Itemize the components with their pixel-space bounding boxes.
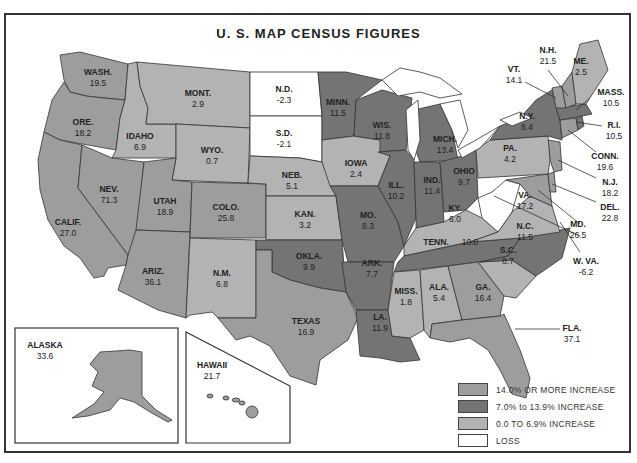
label-wyo: WYO.0.7 (201, 145, 224, 167)
label-mont: MONT.2.9 (185, 88, 211, 110)
label-kan: KAN.3.2 (295, 209, 316, 231)
label-me: ME.2.5 (573, 56, 588, 78)
label-sd: S.D.-2.1 (276, 128, 293, 150)
label-minn: MINN.11.5 (326, 97, 350, 119)
label-hawaii: HAWAII21.7 (197, 360, 227, 382)
label-ariz: ARIZ.36.1 (142, 266, 164, 288)
label-texas: TEXAS16.9 (292, 316, 320, 338)
label-ri: R.I.10.5 (606, 120, 623, 142)
label-tenn: TENN. (423, 237, 449, 248)
label-tenn-value: 10.0 (462, 237, 479, 248)
label-miss: MISS.1.8 (394, 286, 417, 308)
label-mo: MO.8.3 (360, 210, 376, 232)
label-ill: ILL.10.2 (388, 180, 405, 202)
legend-item-high: 14.0% OR MORE INCREASE (458, 381, 616, 398)
label-idaho: IDAHO6.9 (126, 131, 153, 153)
legend-item-loss: LOSS (458, 432, 616, 449)
label-nc: N.C.11.5 (517, 221, 534, 243)
label-ga: GA.16.4 (475, 282, 492, 304)
label-ny: N.Y.8.4 (519, 111, 535, 133)
label-alaska: ALASKA33.6 (27, 340, 62, 362)
legend-swatch-medium (458, 400, 488, 413)
label-va: VA.17.2 (517, 190, 534, 212)
legend-label-medium: 7.0% to 13.9% INCREASE (496, 402, 604, 412)
label-la: LA.11.9 (372, 312, 388, 334)
label-utah: UTAH18.9 (154, 196, 177, 218)
state-nj (548, 140, 562, 172)
legend-label-loss: LOSS (496, 436, 520, 446)
label-wis: WIS.11.8 (373, 120, 391, 142)
label-nev: NEV.71.3 (99, 184, 118, 206)
state-conn (560, 118, 578, 138)
label-ind: IND.11.4 (424, 175, 441, 197)
legend-label-low: 0.0 TO 6.9% INCREASE (496, 419, 595, 429)
label-wva: W. VA.-6.2 (573, 256, 599, 278)
label-wash: WASH.19.5 (84, 67, 112, 89)
legend-item-medium: 7.0% to 13.9% INCREASE (458, 398, 616, 415)
label-colo: COLO.25.8 (213, 202, 240, 224)
legend-swatch-low (458, 417, 488, 430)
label-vt: VT.14.1 (506, 64, 523, 86)
label-ky: KY.6.0 (448, 203, 461, 225)
label-iowa: IOWA2.4 (345, 158, 368, 180)
label-ohio: OHIO9.7 (453, 166, 475, 188)
label-ark: ARK.7.7 (362, 258, 383, 280)
label-ore: ORE.18.2 (73, 117, 94, 139)
leader-conn (568, 130, 596, 152)
leader-del (552, 184, 596, 202)
label-okla: OKLA.9.9 (296, 251, 322, 273)
legend-swatch-high (458, 383, 488, 396)
label-nh: N.H.21.5 (540, 45, 557, 67)
label-nd: N.D.-2.3 (276, 84, 293, 106)
label-del: DEL.22.8 (600, 202, 619, 224)
label-mich: MICH.13.4 (433, 134, 457, 156)
label-fla: FLA.37.1 (563, 323, 582, 345)
legend: 14.0% OR MORE INCREASE 7.0% to 13.9% INC… (458, 381, 616, 449)
legend-swatch-loss (458, 434, 488, 447)
label-neb: NEB.5.1 (282, 170, 302, 192)
label-ala: ALA.5.4 (429, 282, 449, 304)
label-pa: PA.4.2 (503, 143, 517, 165)
label-calif: CALIF.27.0 (55, 217, 81, 239)
label-nm: N.M.6.8 (213, 268, 231, 290)
legend-label-high: 14.0% OR MORE INCREASE (496, 385, 616, 395)
label-sc: S.C.8.7 (500, 245, 517, 267)
label-nj: N.J.18.2 (602, 177, 619, 199)
label-mass: MASS.10.5 (598, 87, 625, 109)
label-conn: CONN.19.6 (591, 151, 618, 173)
leader-nj (558, 160, 596, 178)
label-md: MD.26.5 (570, 219, 587, 241)
legend-item-low: 0.0 TO 6.9% INCREASE (458, 415, 616, 432)
